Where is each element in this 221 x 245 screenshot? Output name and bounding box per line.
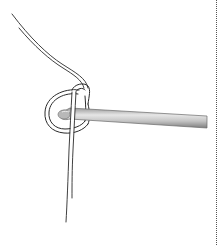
crochet-slip-knot-illustration (0, 0, 221, 245)
dotted-divider (216, 0, 217, 245)
yarn-strand-icon (12, 14, 88, 88)
